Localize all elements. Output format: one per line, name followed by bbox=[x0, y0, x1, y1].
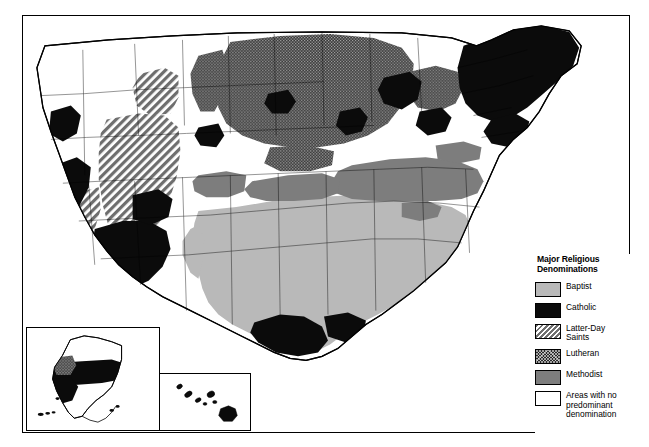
legend-swatch-catholic bbox=[535, 303, 561, 318]
legend-label-no-predominant-denomination: Areas with no predominant denomination bbox=[566, 390, 617, 420]
legend-label-lds-line-1: Latter-Day bbox=[566, 323, 605, 333]
legend-item-baptist[interactable]: Baptist bbox=[535, 281, 648, 297]
legend-title-line-1: Major Religious bbox=[537, 254, 648, 264]
legend-swatch-baptist bbox=[535, 282, 561, 297]
legend-label-none-line-2: predominant bbox=[566, 400, 613, 410]
legend-item-latter-day-saints[interactable]: Latter-Day Saints bbox=[535, 323, 648, 343]
legend-title: Major Religious Denominations bbox=[537, 254, 648, 275]
legend-swatch-methodist bbox=[535, 370, 561, 385]
map-frame: Major Religious Denominations Baptist Ca… bbox=[22, 15, 630, 433]
legend-item-lutheran[interactable]: Lutheran bbox=[535, 348, 648, 364]
legend-swatch-latter-day-saints bbox=[535, 324, 561, 339]
religious-denominations-map-figure: Major Religious Denominations Baptist Ca… bbox=[0, 0, 649, 447]
legend-label-baptist: Baptist bbox=[566, 281, 592, 292]
legend-label-none-line-1: Areas with no bbox=[566, 390, 617, 400]
legend-swatch-lutheran bbox=[535, 349, 561, 364]
legend-swatch-no-predominant-denomination bbox=[535, 391, 561, 406]
legend-label-lutheran: Lutheran bbox=[566, 348, 599, 359]
legend-label-none-line-3: denomination bbox=[566, 409, 616, 419]
legend-label-lds-line-2: Saints bbox=[566, 332, 589, 342]
legend-item-catholic[interactable]: Catholic bbox=[535, 302, 648, 318]
alaska-inset bbox=[26, 327, 160, 431]
legend-label-catholic: Catholic bbox=[566, 302, 596, 313]
legend-label-methodist: Methodist bbox=[566, 369, 602, 380]
hawaii-inset bbox=[159, 373, 251, 431]
hawaii-map bbox=[160, 374, 250, 430]
alaska-map bbox=[27, 328, 159, 430]
legend-item-no-predominant-denomination[interactable]: Areas with no predominant denomination bbox=[535, 390, 648, 420]
legend-label-latter-day-saints: Latter-Day Saints bbox=[566, 323, 605, 343]
legend-title-line-2: Denominations bbox=[537, 264, 648, 274]
map-legend: Major Religious Denominations Baptist Ca… bbox=[535, 254, 648, 440]
legend-item-methodist[interactable]: Methodist bbox=[535, 369, 648, 385]
